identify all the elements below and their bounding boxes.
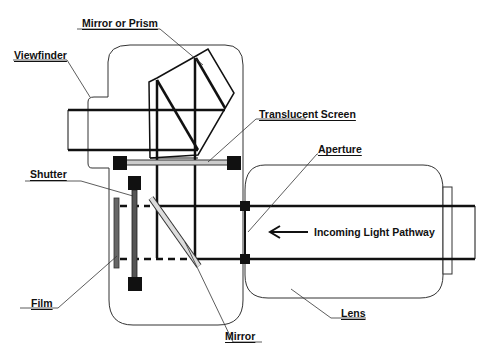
label-shutter: Shutter xyxy=(30,168,67,180)
label-aperture: Aperture xyxy=(318,143,362,155)
slr-camera-diagram xyxy=(0,0,490,362)
shutter xyxy=(128,176,142,291)
lens-front-element xyxy=(443,187,452,274)
label-mirror-or-prism: Mirror or Prism xyxy=(82,17,158,29)
label-mirror: Mirror xyxy=(225,330,255,342)
label-viewfinder: Viewfinder xyxy=(14,49,67,61)
label-incoming-light-pathway: Incoming Light Pathway xyxy=(314,226,435,238)
light-path-inner xyxy=(120,206,245,259)
label-film: Film xyxy=(31,297,53,309)
label-translucent-screen: Translucent Screen xyxy=(259,108,356,120)
label-lens: Lens xyxy=(341,307,366,319)
camera-body-outline xyxy=(88,45,243,325)
viewfinder-tube xyxy=(68,110,225,150)
